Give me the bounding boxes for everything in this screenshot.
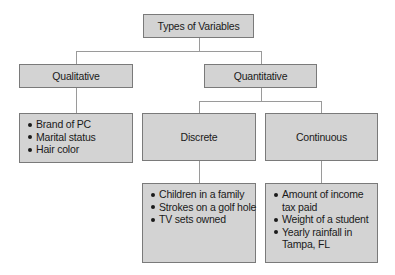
continuous-box: Continuous [265, 113, 378, 161]
connector-discrete-to-list [199, 160, 200, 183]
root-box: Types of Variables [143, 14, 254, 38]
connector-continuous-to-list [321, 160, 322, 183]
list-item: Amount of income [274, 188, 377, 201]
connector-level1-horizontal [76, 51, 262, 52]
list-item: Hair color [28, 143, 132, 156]
list-item-continuation: tax paid [274, 201, 377, 214]
connector-to-qualitative [76, 51, 77, 64]
list-item: Marital status [28, 131, 132, 144]
continuous-label: Continuous [296, 131, 347, 143]
connector-qualitative-to-list [76, 87, 77, 113]
list-item: Strokes on a golf hole [151, 201, 255, 214]
connector-root-down [199, 37, 200, 51]
discrete-examples-list: Children in a family Strokes on a golf h… [151, 188, 255, 226]
qualitative-box: Qualitative [19, 64, 133, 88]
list-item: Brand of PC [28, 118, 132, 131]
list-item: TV sets owned [151, 213, 255, 226]
discrete-box: Discrete [142, 113, 256, 161]
discrete-examples-box: Children in a family Strokes on a golf h… [142, 183, 256, 263]
list-item: Yearly rainfall in [274, 226, 377, 239]
discrete-label: Discrete [181, 131, 218, 143]
list-item: Children in a family [151, 188, 255, 201]
connector-to-discrete [199, 101, 200, 113]
connector-to-quantitative [261, 51, 262, 64]
continuous-examples-box: Amount of income tax paid Weight of a st… [265, 183, 378, 263]
root-label: Types of Variables [158, 20, 240, 32]
qualitative-examples-box: Brand of PC Marital status Hair color [19, 113, 133, 163]
continuous-examples-list: Amount of income tax paid Weight of a st… [274, 188, 377, 251]
qualitative-examples-list: Brand of PC Marital status Hair color [28, 118, 132, 156]
quantitative-label: Quantitative [234, 70, 288, 82]
list-item: Weight of a student [274, 213, 377, 226]
connector-quantitative-down [261, 87, 262, 101]
qualitative-label: Qualitative [52, 70, 99, 82]
connector-to-continuous [321, 101, 322, 113]
quantitative-box: Quantitative [204, 64, 317, 88]
list-item-continuation: Tampa, FL [274, 238, 377, 251]
connector-level2-horizontal [199, 101, 322, 102]
